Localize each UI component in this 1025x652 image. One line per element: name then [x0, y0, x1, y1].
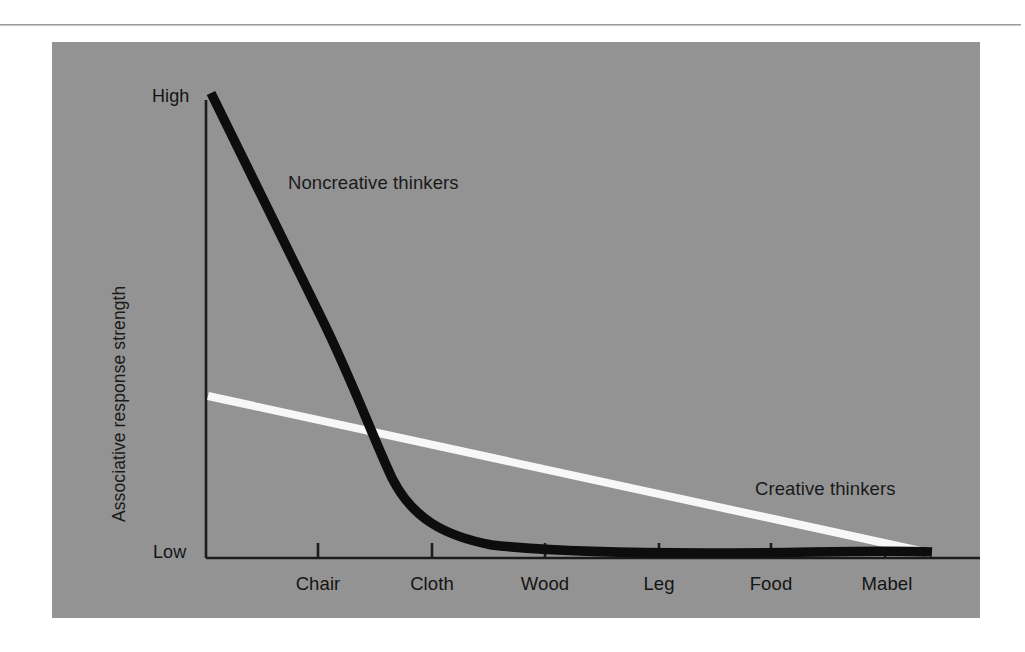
chart-plot-area: [52, 42, 980, 618]
x-tick-label-wood: Wood: [521, 573, 569, 595]
figure-panel: Associative response strength High Low C…: [52, 42, 980, 618]
series-line-creative: [208, 396, 930, 553]
y-axis-title: Associative response strength: [109, 286, 130, 522]
series-annotation-creative: Creative thinkers: [755, 478, 896, 500]
x-tick-label-mabel: Mabel: [862, 573, 913, 595]
y-axis-low-label: Low: [153, 542, 186, 563]
x-tick-label-leg: Leg: [643, 573, 674, 595]
y-axis-high-label: High: [152, 86, 189, 107]
x-tick-label-cloth: Cloth: [410, 573, 454, 595]
series-annotation-noncreative: Noncreative thinkers: [288, 172, 459, 194]
x-tick-label-chair: Chair: [296, 573, 341, 595]
page-divider-rule: [0, 24, 1021, 26]
x-tick-label-food: Food: [750, 573, 793, 595]
